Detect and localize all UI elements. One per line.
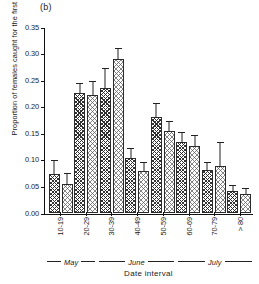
month-bracket: July	[176, 256, 254, 268]
bar[interactable]	[138, 171, 149, 213]
bar[interactable]	[49, 174, 60, 213]
error-bar	[156, 103, 157, 118]
error-bar	[220, 142, 221, 168]
bar-slot	[150, 29, 163, 213]
x-tick: 20-29	[73, 217, 99, 253]
bar[interactable]	[227, 191, 238, 213]
panel-label: (b)	[40, 2, 52, 12]
error-bar	[130, 148, 131, 159]
error-bar	[194, 135, 195, 147]
error-bar	[105, 68, 106, 89]
x-tick-label: 10-19	[55, 217, 64, 235]
x-tick-label: 60-69	[184, 217, 193, 235]
error-bar-cap	[140, 162, 147, 163]
y-tick-mark	[41, 54, 45, 55]
bar[interactable]	[113, 59, 124, 213]
y-tick-mark	[41, 134, 45, 135]
y-axis-title: Proportion of females caught for the fir…	[10, 0, 19, 161]
x-tick: 50-59	[150, 217, 176, 253]
error-bar-cap	[51, 160, 58, 161]
bar-slot	[137, 29, 150, 213]
error-bar-cap	[76, 83, 83, 84]
month-bracket: June	[97, 256, 175, 268]
bar[interactable]	[125, 158, 136, 213]
month-bracket: May	[45, 256, 97, 268]
bar[interactable]	[62, 184, 73, 213]
bar-slot	[239, 29, 252, 213]
x-tick-mark	[60, 212, 61, 216]
error-bar	[92, 81, 93, 96]
figure-panel-b: (b) Proportion of females caught for the…	[0, 0, 259, 284]
error-bar-cap	[153, 103, 160, 104]
x-tick-label: 20-29	[81, 217, 90, 235]
y-tick-label: 0.10	[25, 155, 39, 164]
x-tick-mark	[137, 212, 138, 216]
x-tick: 60-69	[176, 217, 202, 253]
x-tick-label: > 80	[236, 217, 245, 231]
bar[interactable]	[240, 194, 251, 213]
y-tick-label: 0.05	[25, 182, 39, 191]
x-tick-label: 50-59	[158, 217, 167, 235]
y-tick-mark	[41, 160, 45, 161]
error-bar	[245, 188, 246, 195]
error-bar	[143, 162, 144, 172]
y-tick-label: 0.30	[25, 49, 39, 58]
x-tick-label: 70-79	[210, 217, 219, 235]
error-bar-cap	[178, 132, 185, 133]
month-bracket-label: June	[125, 258, 147, 267]
bar[interactable]	[176, 142, 187, 213]
error-bar-cap	[102, 68, 109, 69]
error-bar	[54, 160, 55, 175]
x-tick: 30-39	[99, 217, 125, 253]
bar-group	[99, 29, 125, 213]
y-tick-label: 0.00	[25, 209, 39, 218]
error-bar-cap	[242, 188, 249, 189]
bar-group	[74, 29, 100, 213]
bar[interactable]	[100, 88, 111, 213]
bar-group	[150, 29, 176, 213]
error-bar-cap	[115, 48, 122, 49]
x-tick-mark	[240, 212, 241, 216]
error-bar	[207, 162, 208, 171]
bar[interactable]	[87, 95, 98, 213]
error-bar-cap	[166, 121, 173, 122]
bar[interactable]	[74, 93, 85, 213]
bar-slot	[201, 29, 214, 213]
bar-slot	[176, 29, 189, 213]
y-tick-mark	[41, 214, 45, 215]
error-bar	[181, 132, 182, 143]
month-brackets: MayJuneJuly	[45, 256, 254, 268]
bar[interactable]	[202, 170, 213, 213]
y-tick-mark	[41, 28, 45, 29]
bar-group	[48, 29, 74, 213]
x-axis-ticks: 10-1920-2930-3940-4950-5960-6970-79> 80	[45, 217, 254, 253]
x-tick-label: 30-39	[107, 217, 116, 235]
error-bar	[79, 83, 80, 95]
error-bar-cap	[89, 81, 96, 82]
x-tick-mark	[214, 212, 215, 216]
error-bar	[232, 185, 233, 192]
y-tick-label: 0.35	[25, 23, 39, 32]
x-axis-title: Date interval	[44, 269, 253, 278]
y-tick-label: 0.25	[25, 76, 39, 85]
error-bar-cap	[229, 185, 236, 186]
x-tick: 40-49	[124, 217, 150, 253]
y-tick-mark	[41, 107, 45, 108]
bar[interactable]	[189, 146, 200, 213]
x-tick-mark	[189, 212, 190, 216]
y-tick-label: 0.15	[25, 129, 39, 138]
plot-area: 0.000.050.100.150.200.250.300.35	[44, 29, 253, 215]
y-tick-mark	[41, 187, 45, 188]
bar[interactable]	[164, 131, 175, 213]
x-tick-label: 40-49	[133, 217, 142, 235]
bar[interactable]	[151, 117, 162, 213]
bar-group	[227, 29, 253, 213]
bar-slot	[74, 29, 87, 213]
bar[interactable]	[215, 166, 226, 213]
month-bracket-label: July	[205, 258, 225, 267]
error-bar	[67, 173, 68, 185]
x-tick: 70-79	[202, 217, 228, 253]
error-bar-cap	[127, 148, 134, 149]
error-bar	[118, 48, 119, 60]
bar-slot	[112, 29, 125, 213]
